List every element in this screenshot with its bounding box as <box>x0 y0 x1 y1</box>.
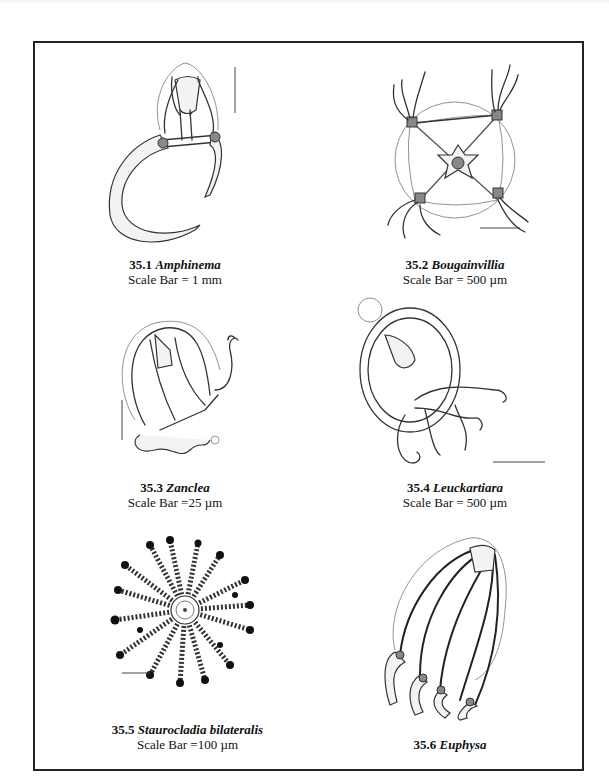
plate-bougainvillia-drawing <box>380 60 540 240</box>
scale-bar-label: Scale Bar =100 µm <box>105 737 270 752</box>
scale-bar-label: Scale Bar = 500 µm <box>380 272 530 287</box>
plate-number: 35.3 <box>140 480 163 495</box>
zanclea-illustration <box>110 310 270 470</box>
plate-number: 35.5 <box>112 722 135 737</box>
euphysa-illustration <box>375 530 535 720</box>
plate-euphysa-drawing <box>375 530 535 720</box>
plate-number: 35.2 <box>406 257 429 272</box>
caption-35-2: 35.2 Bougainvillia Scale Bar = 500 µm <box>380 257 530 287</box>
caption-35-6: 35.6 Euphysa <box>390 737 510 752</box>
scale-bar-label: Scale Bar = 1 mm <box>110 272 240 287</box>
plate-number: 35.6 <box>414 737 437 752</box>
staurocladia-illustration <box>110 535 260 685</box>
genus-name: Zanclea <box>166 480 209 495</box>
caption-35-3: 35.3 Zanclea Scale Bar =25 µm <box>110 480 240 510</box>
genus-name: Leuckartiara <box>433 480 503 495</box>
amphinema-illustration <box>100 55 280 255</box>
genus-name: Staurocladia bilateralis <box>138 722 263 737</box>
scale-bar-label: Scale Bar =25 µm <box>110 495 240 510</box>
plate-number: 35.1 <box>129 257 152 272</box>
plate-zanclea-drawing <box>110 310 270 470</box>
genus-name: Amphinema <box>155 257 221 272</box>
caption-35-5: 35.5 Staurocladia bilateralis Scale Bar … <box>105 722 270 752</box>
plate-amphinema-drawing <box>100 55 280 255</box>
caption-35-4: 35.4 Leuckartiara Scale Bar = 500 µm <box>380 480 530 510</box>
genus-name: Bougainvillia <box>432 257 505 272</box>
bougainvillia-illustration <box>380 60 540 240</box>
scale-bar-label: Scale Bar = 500 µm <box>380 495 530 510</box>
plate-number: 35.4 <box>407 480 430 495</box>
plate-staurocladia-drawing <box>110 535 260 685</box>
caption-35-1: 35.1 Amphinema Scale Bar = 1 mm <box>110 257 240 287</box>
plate-leuckartiara-drawing <box>355 290 555 475</box>
leuckartiara-illustration <box>355 290 555 475</box>
genus-name: Euphysa <box>440 737 487 752</box>
cropped-header-strip <box>0 0 609 5</box>
